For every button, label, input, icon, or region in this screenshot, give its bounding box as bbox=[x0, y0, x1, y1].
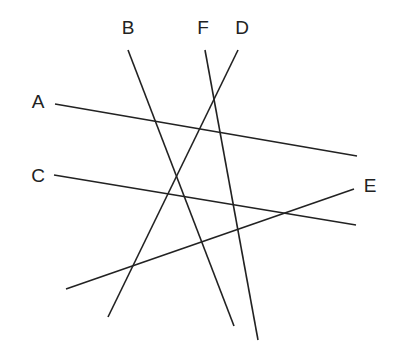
line-c-segment bbox=[54, 175, 356, 225]
line-d: D bbox=[108, 17, 249, 317]
line-c-label: C bbox=[31, 165, 45, 186]
line-e-label: E bbox=[364, 175, 377, 196]
line-f-label: F bbox=[197, 17, 209, 38]
line-a: A bbox=[32, 91, 357, 156]
line-a-segment bbox=[55, 104, 357, 156]
line-c: C bbox=[31, 165, 356, 225]
line-diagram: A B C D E F bbox=[0, 0, 395, 354]
line-e: E bbox=[66, 175, 376, 289]
line-d-label: D bbox=[235, 17, 249, 38]
line-e-segment bbox=[66, 189, 354, 289]
line-b: B bbox=[122, 17, 234, 326]
line-d-segment bbox=[108, 50, 238, 317]
line-f: F bbox=[197, 17, 258, 340]
line-b-label: B bbox=[122, 17, 135, 38]
line-a-label: A bbox=[32, 91, 45, 112]
line-f-segment bbox=[205, 50, 258, 340]
